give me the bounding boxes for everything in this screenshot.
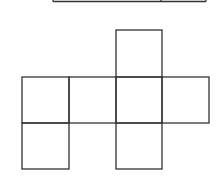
square-middle-right — [162, 77, 209, 123]
cube-net-diagram — [0, 0, 222, 176]
top-strip-box — [53, 0, 206, 2]
square-middle-center — [116, 77, 162, 123]
square-bottom-left — [22, 123, 69, 169]
square-middle-left — [22, 77, 69, 123]
square-top — [116, 30, 162, 77]
square-bottom-center — [116, 123, 162, 169]
square-middle-center-left — [69, 77, 116, 123]
